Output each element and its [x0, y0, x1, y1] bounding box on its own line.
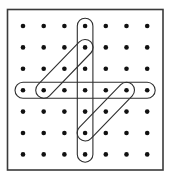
dot-grid — [21, 24, 150, 157]
grid-dot — [124, 24, 129, 29]
grid-dot — [104, 24, 109, 29]
grid-dot — [104, 88, 109, 93]
grid-dot — [104, 131, 109, 136]
grid-dot — [41, 45, 46, 50]
grid-dot — [62, 152, 67, 157]
grid-dot — [124, 45, 129, 50]
grid-dot — [62, 45, 67, 50]
grid-dot — [124, 109, 129, 114]
grid-dot — [21, 24, 26, 29]
grid-dot — [145, 45, 150, 50]
grid-dot — [104, 152, 109, 157]
grid-dot — [41, 109, 46, 114]
grid-dot — [21, 67, 26, 72]
grid-dot — [83, 152, 88, 157]
grid-dot — [145, 24, 150, 29]
dot-grid-diagram — [0, 0, 171, 179]
grid-dot — [21, 109, 26, 114]
grid-dot — [21, 88, 26, 93]
grid-dot — [145, 152, 150, 157]
grid-dot — [83, 45, 88, 50]
grid-dot — [62, 131, 67, 136]
grid-dot — [83, 131, 88, 136]
grid-dot — [41, 67, 46, 72]
grid-dot — [41, 131, 46, 136]
grid-dot — [21, 152, 26, 157]
grid-dot — [83, 67, 88, 72]
grid-dot — [21, 131, 26, 136]
grid-dot — [62, 24, 67, 29]
grid-dot — [83, 109, 88, 114]
grid-dot — [41, 24, 46, 29]
grid-dot — [21, 45, 26, 50]
grid-dot — [83, 24, 88, 29]
grid-dot — [62, 67, 67, 72]
grid-dot — [104, 109, 109, 114]
grid-dot — [145, 109, 150, 114]
grid-dot — [41, 152, 46, 157]
grid-dot — [124, 88, 129, 93]
grid-dot — [104, 45, 109, 50]
grid-dot — [41, 88, 46, 93]
grid-dot — [145, 131, 150, 136]
grid-dot — [145, 67, 150, 72]
grid-dot — [83, 88, 88, 93]
grid-dot — [124, 131, 129, 136]
grid-dot — [62, 88, 67, 93]
grid-dot — [124, 67, 129, 72]
grid-dot — [124, 152, 129, 157]
grid-dot — [62, 109, 67, 114]
grid-dot — [145, 88, 150, 93]
grid-dot — [104, 67, 109, 72]
